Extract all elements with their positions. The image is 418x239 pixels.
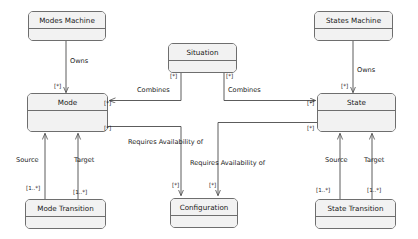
class-body-mode (28, 111, 107, 132)
association-label-mode-target: Target (74, 157, 94, 164)
class-title-state: State (318, 94, 395, 111)
multiplicity-situation-right: [*] (226, 74, 233, 80)
multiplicity-state-combines: [*] (307, 101, 314, 107)
class-box-state[interactable]: State (317, 93, 396, 132)
class-body-configuration (171, 216, 237, 228)
multiplicity-owns-left-target: [*] (54, 84, 61, 90)
uml-class-diagram: Modes Machine States Machine Situation M… (0, 0, 418, 239)
association-label-requires-right: Requires Availability of (190, 160, 265, 167)
class-body-states-machine (315, 29, 392, 41)
multiplicity-state-transition-target: [1..*] (367, 188, 381, 194)
multiplicity-state-transition-source: [1..*] (316, 188, 330, 194)
class-body-state-transition (316, 217, 395, 229)
multiplicity-situation-left: [*] (170, 74, 177, 80)
multiplicity-owns-right-target: [*] (341, 84, 348, 90)
association-label-combines-right: Combines (228, 87, 261, 94)
multiplicity-config-right: [*] (209, 183, 216, 189)
class-body-state (318, 111, 395, 132)
class-box-modes-machine[interactable]: Modes Machine (28, 11, 106, 41)
multiplicity-mode-transition-target: [1..*] (73, 190, 87, 196)
association-label-combines-left: Combines (137, 87, 170, 94)
class-box-situation[interactable]: Situation (168, 43, 237, 73)
class-title-mode: Mode (28, 94, 107, 111)
class-title-configuration: Configuration (171, 199, 237, 216)
class-body-situation (169, 61, 236, 73)
association-label-requires-left: Requires Availability of (128, 139, 203, 146)
association-label-state-target: Target (364, 157, 384, 164)
class-title-state-transition: State Transition (316, 200, 395, 217)
class-title-modes-machine: Modes Machine (29, 12, 105, 29)
association-label-owns-right: Owns (357, 67, 375, 74)
class-box-mode[interactable]: Mode (27, 93, 108, 132)
association-label-mode-source: Source (16, 157, 39, 164)
class-box-state-transition[interactable]: State Transition (315, 199, 396, 229)
association-label-owns-left: Owns (70, 58, 88, 65)
multiplicity-config-left: [*] (172, 183, 179, 189)
association-label-state-source: Source (325, 157, 348, 164)
multiplicity-mode-requires: [*] (104, 126, 111, 132)
class-title-mode-transition: Mode Transition (26, 200, 105, 217)
class-box-mode-transition[interactable]: Mode Transition (25, 199, 106, 229)
multiplicity-state-requires: [*] (307, 126, 314, 132)
multiplicity-mode-transition-source: [1..*] (26, 186, 40, 192)
requires-left-line (107, 127, 181, 196)
class-box-states-machine[interactable]: States Machine (314, 11, 393, 41)
multiplicity-mode-combines: [*] (104, 101, 111, 107)
class-title-situation: Situation (169, 44, 236, 61)
class-body-mode-transition (26, 217, 105, 229)
class-title-states-machine: States Machine (315, 12, 392, 29)
class-box-configuration[interactable]: Configuration (170, 198, 238, 228)
class-body-modes-machine (29, 29, 105, 41)
